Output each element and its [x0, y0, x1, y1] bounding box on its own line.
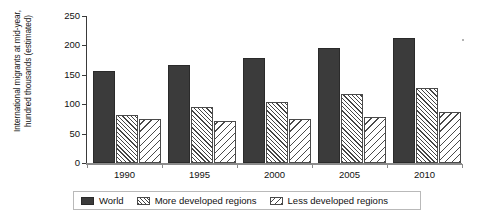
x-tick-mark	[462, 164, 463, 168]
legend-item-2[interactable]: Less developed regions	[270, 196, 388, 206]
y-tick-label: 50	[48, 129, 80, 139]
legend-item-1[interactable]: More developed regions	[137, 196, 257, 206]
y-axis-title: International migrants at mid-year, hund…	[12, 0, 42, 156]
bar-1995-series-0	[168, 65, 190, 163]
y-axis-title-line-2: hundred thousands (estimated)	[23, 0, 34, 156]
x-tick-mark	[87, 164, 88, 168]
bar-2000-series-2	[289, 119, 311, 163]
x-tick-label-2005: 2005	[315, 169, 385, 180]
bar-group-2005	[312, 16, 387, 163]
x-tick-label-2010: 2010	[390, 169, 460, 180]
y-tick-mark	[82, 75, 86, 76]
x-tick-label-2000: 2000	[240, 169, 310, 180]
bar-1995-series-1	[191, 107, 213, 163]
x-tick-mark	[312, 164, 313, 168]
legend-label: More developed regions	[155, 196, 257, 206]
bar-2010-series-2	[439, 112, 461, 163]
y-tick-label: 150	[48, 70, 80, 80]
x-axis-line	[86, 163, 462, 165]
diagonal-hatch-square-icon	[270, 197, 283, 205]
x-tick-mark	[387, 164, 388, 168]
y-axis-title-line-1: International migrants at mid-year,	[12, 0, 23, 156]
x-tick-mark	[237, 164, 238, 168]
y-tick-mark	[82, 104, 86, 105]
legend-label: World	[99, 196, 124, 206]
x-tick-label-1990: 1990	[90, 169, 160, 180]
bar-group-1990	[87, 16, 162, 163]
bar-group-1995	[162, 16, 237, 163]
y-tick-label: 100	[48, 99, 80, 109]
bar-2005-series-0	[318, 48, 340, 163]
bar-2005-series-1	[341, 94, 363, 163]
y-tick-mark	[82, 45, 86, 46]
bar-2010-series-0	[393, 38, 415, 163]
chart-legend: WorldMore developed regionsLess develope…	[73, 191, 421, 210]
y-tick-mark	[82, 16, 86, 17]
y-tick-mark	[82, 134, 86, 135]
bar-chart: International migrants at mid-year, hund…	[0, 0, 496, 222]
bar-2000-series-1	[266, 102, 288, 163]
bar-1990-series-1	[116, 115, 138, 163]
bar-2000-series-0	[243, 58, 265, 163]
bar-1995-series-2	[214, 121, 236, 163]
bar-2005-series-2	[364, 117, 386, 163]
legend-label: Less developed regions	[288, 196, 388, 206]
plot-area: 050100150200250 19901995200020052010	[86, 16, 462, 164]
scan-speck	[462, 39, 464, 41]
y-tick-label: 200	[48, 40, 80, 50]
solid-dark-square-icon	[81, 197, 94, 205]
y-tick-mark	[82, 163, 86, 164]
dense-hatch-square-icon	[137, 197, 150, 205]
x-tick-mark	[162, 164, 163, 168]
y-tick-label: 0	[48, 158, 80, 168]
bar-1990-series-0	[93, 71, 115, 163]
bar-1990-series-2	[139, 119, 161, 163]
bar-layer	[87, 16, 462, 163]
x-tick-label-1995: 1995	[165, 169, 235, 180]
bar-group-2000	[237, 16, 312, 163]
y-tick-label: 250	[48, 11, 80, 21]
bar-group-2010	[387, 16, 462, 163]
legend-item-0[interactable]: World	[81, 196, 124, 206]
bar-2010-series-1	[416, 88, 438, 163]
